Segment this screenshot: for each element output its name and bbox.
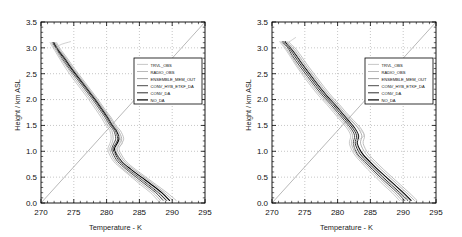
y-tick-label: 3.0	[26, 44, 38, 53]
x-tick-label: 280	[100, 208, 114, 217]
legend-label: CONV_DA	[382, 91, 402, 96]
y-tick-label: 2.5	[26, 70, 38, 79]
x-tick-label: 295	[429, 208, 443, 217]
x-tick-label: 285	[364, 208, 378, 217]
y-tick-label: 1.0	[257, 147, 269, 156]
temperature-profile-figure: DA at 2013-04-24_09:00:00 27027528028529…	[0, 0, 462, 237]
y-tick-label: 2.5	[257, 70, 269, 79]
plot-canvas-09: 2702752802852902950.00.51.01.52.02.53.03…	[0, 0, 231, 237]
x-tick-label: 295	[198, 208, 212, 217]
legend-label: TRVL_OBS	[151, 63, 173, 68]
legend-label: CONV_DA	[151, 91, 171, 96]
y-axis-label-09: Height / km ASL	[13, 65, 22, 145]
x-axis-label-09: Temperature - K	[0, 223, 231, 232]
x-tick-label: 280	[331, 208, 345, 217]
y-tick-label: 1.5	[26, 121, 38, 130]
legend-15: TRVL_OBSRADIO_OBSENSEMBLE_MEM_OUTCONV_HY…	[365, 58, 433, 104]
y-tick-label: 1.5	[257, 121, 269, 130]
y-tick-label: 2.0	[257, 95, 269, 104]
y-tick-label: 3.5	[257, 18, 269, 27]
legend-label: ENSEMBLE_MEM_OUT	[151, 77, 197, 82]
plot-canvas-15: 2702752802852902950.00.51.01.52.02.53.03…	[231, 0, 462, 237]
legend-label: RADIO_OBS	[382, 70, 406, 75]
y-axis-label-holder-09: Height / km ASL	[4, 0, 24, 210]
y-tick-label: 2.0	[26, 95, 38, 104]
legend-label: CONV_HYB_ETKF_DA	[382, 84, 425, 89]
legend-label: NO_DA	[151, 98, 165, 103]
reference-line-09	[41, 22, 205, 203]
x-tick-label: 270	[265, 208, 279, 217]
y-tick-label: 0.5	[26, 173, 38, 182]
x-tick-label: 290	[397, 208, 411, 217]
y-axis-label-15: Height / km ASL	[244, 65, 253, 145]
reference-line-15	[272, 22, 436, 203]
y-tick-label: 0.0	[257, 199, 269, 208]
plot-panel-15: DA at 2013-04-24_15:00:00 27027528028529…	[231, 0, 462, 237]
x-tick-label: 285	[133, 208, 147, 217]
legend-label: RADIO_OBS	[151, 70, 175, 75]
y-tick-label: 3.0	[257, 44, 269, 53]
x-tick-label: 275	[298, 208, 312, 217]
legend-label: NO_DA	[382, 98, 396, 103]
legend-label: TRVL_OBS	[382, 63, 404, 68]
legend-label: CONV_HYB_ETKF_DA	[151, 84, 194, 89]
x-tick-label: 290	[166, 208, 180, 217]
clip-right-15	[437, 0, 462, 237]
plot-panel-09: DA at 2013-04-24_09:00:00 27027528028529…	[0, 0, 231, 237]
legend-label: ENSEMBLE_MEM_OUT	[382, 77, 428, 82]
y-tick-label: 3.5	[26, 18, 38, 27]
y-tick-label: 0.0	[26, 199, 38, 208]
clip-right-09	[206, 0, 231, 237]
x-tick-label: 275	[67, 208, 81, 217]
y-axis-label-holder-15: Height / km ASL	[235, 0, 255, 210]
y-tick-label: 0.5	[257, 173, 269, 182]
x-axis-label-15: Temperature - K	[231, 223, 462, 232]
x-tick-label: 270	[34, 208, 48, 217]
legend-09: TRVL_OBSRADIO_OBSENSEMBLE_MEM_OUTCONV_HY…	[134, 58, 202, 104]
y-tick-label: 1.0	[26, 147, 38, 156]
